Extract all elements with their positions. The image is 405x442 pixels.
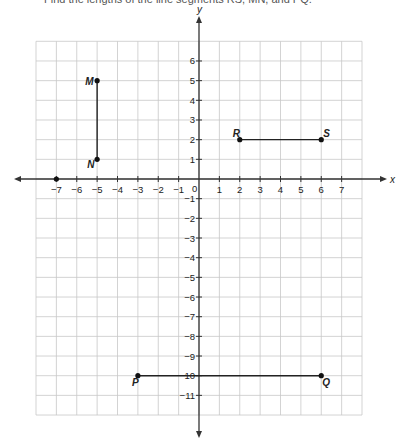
y-tick-label: 5 <box>190 75 195 86</box>
y-tick-label: 3 <box>190 114 195 125</box>
point-label-n: N <box>87 159 95 170</box>
point-label-q: Q <box>322 377 330 388</box>
coordinate-plane: xy −7−6−5−4−3−2−101234567654321−1−2−3−4−… <box>0 0 405 442</box>
x-tick-label: −1 <box>173 184 184 195</box>
segments <box>97 81 321 376</box>
x-axis-label: x <box>389 174 396 185</box>
y-tick-label: −5 <box>184 272 195 283</box>
x-tick-label: −4 <box>112 184 123 195</box>
point-m <box>95 78 100 83</box>
y-tick-label: −4 <box>184 252 195 263</box>
x-tick-label: 2 <box>237 184 242 195</box>
y-tick-label: 1 <box>190 154 195 165</box>
point-unlabeled <box>54 176 59 181</box>
y-tick-label: −7 <box>184 311 195 322</box>
point-label-p: P <box>132 377 139 388</box>
y-axis-label: y <box>196 4 203 15</box>
y-axis-up-arrow-icon <box>196 16 202 23</box>
x-tick-label: 1 <box>217 184 222 195</box>
x-tick-label: −5 <box>92 184 103 195</box>
point-label-s: S <box>323 128 330 139</box>
y-tick-label: −6 <box>184 292 195 303</box>
point-label-r: R <box>233 128 241 139</box>
y-tick-label: 6 <box>190 55 195 66</box>
y-tick-label: −2 <box>184 213 195 224</box>
x-tick-label: −3 <box>132 184 143 195</box>
x-axis-right-arrow-icon <box>380 176 387 182</box>
y-tick-label: −8 <box>184 331 195 342</box>
x-tick-label: 6 <box>319 184 324 195</box>
y-tick-label: 4 <box>190 95 195 106</box>
x-tick-label: −6 <box>71 184 82 195</box>
y-tick-label: −1 <box>184 193 195 204</box>
x-tick-label: 4 <box>278 184 283 195</box>
y-axis-down-arrow-icon <box>196 431 202 438</box>
point-n <box>95 157 100 162</box>
x-axis-left-arrow-icon <box>14 176 21 182</box>
point-label-m: M <box>85 76 94 87</box>
x-tick-label: 5 <box>298 184 303 195</box>
y-tick-label: 2 <box>190 134 195 145</box>
x-tick-label: −7 <box>51 184 62 195</box>
x-tick-label: 3 <box>257 184 262 195</box>
axes: xy <box>14 4 396 438</box>
x-tick-label: 7 <box>339 184 344 195</box>
y-tick-label: −3 <box>184 233 195 244</box>
x-tick-label: −2 <box>153 184 164 195</box>
tick-labels: −7−6−5−4−3−2−101234567654321−1−2−3−4−5−6… <box>51 55 344 400</box>
y-tick-label: −11 <box>180 390 195 401</box>
y-tick-label: −9 <box>184 351 195 362</box>
